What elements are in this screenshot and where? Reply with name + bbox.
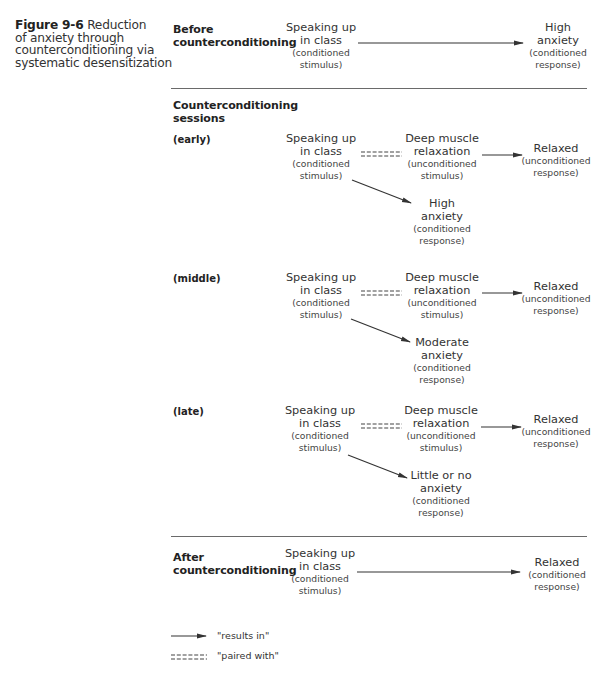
- node-main-text: in class: [266, 34, 376, 47]
- node-main-text: anxiety: [503, 34, 613, 47]
- node-main-text: relaxation: [387, 145, 497, 158]
- stage-label-late: (late): [173, 406, 204, 417]
- node-main-text: High: [387, 197, 497, 210]
- early-anxiety-node: High anxiety (conditioned response): [387, 197, 497, 246]
- node-note-text: (conditioned: [387, 362, 497, 374]
- node-main-text: Speaking up: [266, 271, 376, 284]
- node-main-text: Speaking up: [265, 547, 375, 560]
- node-note-text: stimulus): [386, 442, 496, 454]
- node-note-text: (unconditioned: [501, 155, 611, 167]
- node-note-text: response): [503, 59, 613, 71]
- node-note-text: (conditioned: [502, 569, 612, 581]
- node-main-text: Deep muscle: [386, 404, 496, 417]
- section-divider-1: [171, 88, 587, 89]
- node-main-text: anxiety: [387, 210, 497, 223]
- node-main-text: Relaxed: [501, 413, 611, 426]
- node-note-text: (unconditioned: [386, 430, 496, 442]
- node-note-text: response): [501, 167, 611, 179]
- late-stimulus-node: Speaking up in class (conditioned stimul…: [265, 404, 375, 453]
- node-note-text: (conditioned: [265, 430, 375, 442]
- node-note-text: (unconditioned: [501, 426, 611, 438]
- node-main-text: Relaxed: [501, 280, 611, 293]
- node-note-text: response): [387, 374, 497, 386]
- sessions-heading-line-2: sessions: [173, 112, 225, 125]
- middle-stimulus-node: Speaking up in class (conditioned stimul…: [266, 271, 376, 320]
- node-main-text: relaxation: [387, 284, 497, 297]
- late-anxiety-node: Little or no anxiety (conditioned respon…: [386, 469, 496, 518]
- node-note-text: (unconditioned: [387, 158, 497, 170]
- node-note-text: stimulus): [387, 170, 497, 182]
- middle-paired-node: Deep muscle relaxation (unconditioned st…: [387, 271, 497, 320]
- early-paired-node: Deep muscle relaxation (unconditioned st…: [387, 132, 497, 181]
- node-note-text: (conditioned: [266, 158, 376, 170]
- before-heading-line-1: Before: [173, 23, 213, 36]
- node-note-text: (conditioned: [266, 297, 376, 309]
- node-note-text: stimulus): [266, 59, 376, 71]
- node-main-text: in class: [265, 560, 375, 573]
- node-note-text: response): [386, 507, 496, 519]
- node-note-text: response): [502, 581, 612, 593]
- legend-dashes: [171, 655, 207, 659]
- node-note-text: (conditioned: [503, 47, 613, 59]
- node-main-text: High: [503, 21, 613, 34]
- node-note-text: stimulus): [265, 585, 375, 597]
- node-main-text: Moderate: [387, 336, 497, 349]
- after-stimulus-node: Speaking up in class (conditioned stimul…: [265, 547, 375, 596]
- node-main-text: Speaking up: [265, 404, 375, 417]
- node-note-text: stimulus): [265, 442, 375, 454]
- node-main-text: in class: [266, 284, 376, 297]
- node-main-text: Relaxed: [502, 556, 612, 569]
- node-main-text: Deep muscle: [387, 271, 497, 284]
- node-note-text: stimulus): [266, 309, 376, 321]
- legend-paired-with: "paired with": [217, 650, 279, 661]
- sessions-heading: Counterconditioning sessions: [173, 99, 298, 125]
- late-paired-node: Deep muscle relaxation (unconditioned st…: [386, 404, 496, 453]
- legend-results-in: "results in": [217, 630, 269, 641]
- node-note-text: response): [387, 235, 497, 247]
- after-heading-line-1: After: [173, 551, 204, 564]
- node-note-text: stimulus): [387, 309, 497, 321]
- node-main-text: anxiety: [386, 482, 496, 495]
- node-note-text: (conditioned: [387, 223, 497, 235]
- node-note-text: (conditioned: [386, 495, 496, 507]
- node-note-text: response): [501, 438, 611, 450]
- section-divider-2: [171, 536, 587, 537]
- before-response-node: High anxiety (conditioned response): [503, 21, 613, 70]
- node-main-text: Little or no: [386, 469, 496, 482]
- middle-anxiety-node: Moderate anxiety (conditioned response): [387, 336, 497, 385]
- after-response-node: Relaxed (conditioned response): [502, 556, 612, 592]
- node-main-text: Speaking up: [266, 21, 376, 34]
- before-stimulus-node: Speaking up in class (conditioned stimul…: [266, 21, 376, 70]
- early-stimulus-node: Speaking up in class (conditioned stimul…: [266, 132, 376, 181]
- node-main-text: Relaxed: [501, 142, 611, 155]
- late-relaxed-node: Relaxed (unconditioned response): [501, 413, 611, 449]
- node-main-text: in class: [266, 145, 376, 158]
- node-main-text: Deep muscle: [387, 132, 497, 145]
- early-relaxed-node: Relaxed (unconditioned response): [501, 142, 611, 178]
- node-main-text: Speaking up: [266, 132, 376, 145]
- node-note-text: (conditioned: [265, 573, 375, 585]
- node-note-text: stimulus): [266, 170, 376, 182]
- node-note-text: (unconditioned: [387, 297, 497, 309]
- node-note-text: (conditioned: [266, 47, 376, 59]
- node-note-text: response): [501, 305, 611, 317]
- stage-label-early: (early): [173, 134, 211, 145]
- sessions-heading-line-1: Counterconditioning: [173, 99, 298, 112]
- node-main-text: relaxation: [386, 417, 496, 430]
- node-main-text: in class: [265, 417, 375, 430]
- node-note-text: (unconditioned: [501, 293, 611, 305]
- node-main-text: anxiety: [387, 349, 497, 362]
- middle-relaxed-node: Relaxed (unconditioned response): [501, 280, 611, 316]
- stage-label-middle: (middle): [173, 273, 221, 284]
